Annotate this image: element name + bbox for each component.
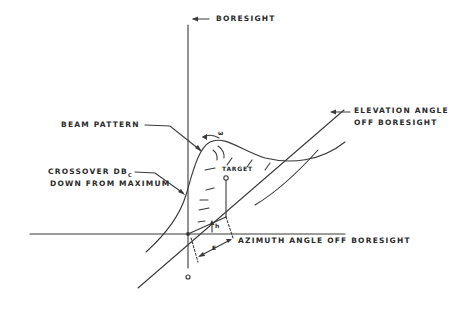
origin-point [186,232,190,236]
crossover-label-line1: CROSSOVER DBC [48,167,133,180]
crossover-label-text: CROSSOVER DB [48,167,128,176]
target-label: TARGET [222,164,253,174]
beam-pattern-leader [145,125,200,150]
elevation-label-line2: OFF BORESIGHT [354,118,438,128]
beam-pattern-arrowhead [195,145,202,152]
target-projection-line [188,217,226,234]
crossover-subscript: C [128,172,133,178]
crossover-label-line2: DOWN FROM MAXIMUM [50,179,170,189]
epsilon-arrowhead-right [226,239,232,243]
azimuth-label: AZIMUTH ANGLE OFF BORESIGHT [238,236,411,246]
boresight-label: BORESIGHT [216,14,276,24]
epsilon-dotted-line [226,217,233,238]
elevation-arrowhead [330,110,336,115]
omega-arrowhead [202,134,207,140]
beam-pattern-label: BEAM PATTERN [61,120,140,130]
elevation-axis [138,110,344,288]
epsilon-arrowhead-left [198,252,205,257]
epsilon-label: E [212,243,217,253]
eta-label: h [215,221,220,231]
elevation-label-line1: ELEVATION ANGLE [354,106,449,116]
omega-label: ω [218,128,224,138]
origin-marker [186,275,190,279]
boresight-arrowhead [192,17,198,22]
epsilon-dotted-line-2 [191,238,198,262]
